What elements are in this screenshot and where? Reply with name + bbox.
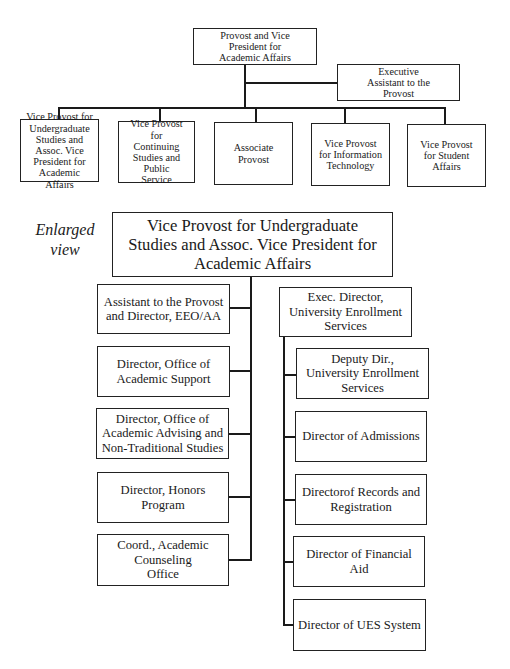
org-box-vp-information-technology: Vice Provost for Information Technology [311, 123, 390, 186]
connector [344, 107, 346, 123]
org-box-associate-provost: Associate Provost [214, 122, 293, 185]
org-box-vp-undergraduate: Vice Provost for Undergraduate Studies a… [20, 119, 99, 182]
connector [283, 336, 285, 626]
org-box-provost: Provost and Vice President for Academic … [193, 28, 317, 65]
connector [245, 82, 337, 84]
box-label: Vice Provost for Student Affairs [415, 139, 479, 173]
connector [228, 496, 251, 498]
connector [283, 624, 293, 626]
enlarged-view-caption: Enlarged view [30, 220, 100, 260]
box-label: Director of UES System [298, 618, 421, 633]
box-label: Executive Assistant to the Provost [359, 66, 439, 100]
box-label: Director of Admissions [300, 429, 422, 444]
connector [229, 307, 251, 309]
org-box-records-registration: Directorof Records and Registration [295, 474, 427, 525]
org-box-academic-support: Director, Office of Academic Support [97, 346, 230, 397]
org-box-deputy-director-ues: Deputy Dir., University Enrollment Servi… [296, 348, 429, 399]
connector [444, 107, 446, 124]
connector [283, 436, 295, 438]
box-label: Coord., Academic Counseling Office [117, 538, 209, 582]
connector [244, 64, 246, 109]
connector [255, 107, 257, 122]
org-box-financial-aid: Director of Financial Aid [293, 536, 425, 587]
org-box-honors-program: Director, Honors Program [97, 472, 229, 523]
box-label: Director, Office of Academic Advising an… [101, 412, 224, 456]
connector [250, 276, 252, 561]
connector [283, 561, 293, 563]
box-label: Provost and Vice President for Academic … [209, 30, 301, 64]
box-label: Vice Provost for Undergraduate Studies a… [25, 111, 94, 189]
connector [229, 370, 251, 372]
connector [283, 499, 295, 501]
caption-line: view [30, 240, 100, 260]
connector [283, 374, 296, 376]
connector [228, 433, 251, 435]
box-label: Vice Provost for Undergraduate Studies a… [122, 216, 384, 273]
box-label: Assistant to the Provost and Director, E… [103, 295, 225, 324]
caption-line: Enlarged [30, 220, 100, 240]
org-box-executive-assistant: Executive Assistant to the Provost [337, 64, 460, 101]
box-label: Director, Office of Academic Support [116, 357, 212, 386]
box-label: Vice Provost for Continuing Studies and … [128, 118, 186, 185]
connector [58, 107, 446, 109]
connector [228, 559, 252, 561]
box-label: Director of Financial Aid [298, 547, 420, 576]
org-box-enlarged-root: Vice Provost for Undergraduate Studies a… [112, 212, 393, 277]
org-box-exec-director-ues: Exec. Director, University Enrollment Se… [279, 287, 412, 337]
box-label: Deputy Dir., University Enrollment Servi… [304, 352, 422, 396]
box-label: Exec. Director, University Enrollment Se… [284, 290, 407, 334]
org-box-admissions: Director of Admissions [295, 411, 427, 462]
org-box-academic-counseling: Coord., Academic Counseling Office [97, 534, 229, 586]
box-label: Directorof Records and Registration [300, 485, 422, 514]
box-label: Vice Provost for Information Technology [319, 138, 383, 172]
box-label: Director, Honors Program [120, 483, 206, 512]
org-box-academic-advising: Director, Office of Academic Advising an… [96, 408, 229, 459]
org-box-vp-student-affairs: Vice Provost for Student Affairs [407, 124, 486, 187]
org-box-vp-continuing-studies: Vice Provost for Continuing Studies and … [118, 121, 195, 183]
org-box-ues-system: Director of UES System [293, 599, 426, 651]
org-box-assistant-eeo: Assistant to the Provost and Director, E… [97, 284, 230, 334]
box-label: Associate Provost [219, 142, 288, 164]
